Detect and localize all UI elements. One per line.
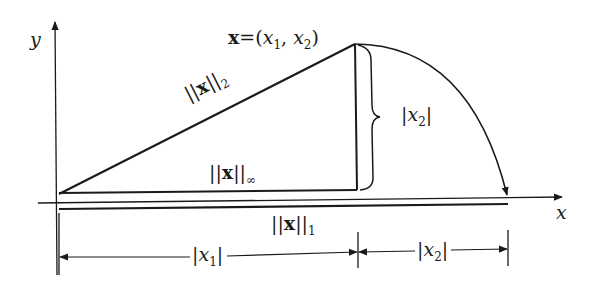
y-axis-label: y xyxy=(30,30,41,49)
point-label: x=(x1, x2) xyxy=(228,28,319,47)
dim-x1-right xyxy=(227,252,357,256)
abs-x2-dimension-label: |x2| xyxy=(417,240,448,259)
norm1-label: ||x||1 xyxy=(271,214,316,233)
dim-x2-left xyxy=(359,251,415,252)
norm1-line xyxy=(59,204,508,209)
y-axis xyxy=(55,22,57,275)
norm-inf-label: ||x||∞ xyxy=(209,163,256,182)
x2-vertical-line xyxy=(355,44,357,190)
x-axis xyxy=(38,197,562,203)
norm-inf-line xyxy=(59,190,357,193)
norm2-line xyxy=(59,44,355,194)
abs-x1-dimension-label: |x1| xyxy=(192,245,223,264)
x2-brace xyxy=(358,45,380,190)
x-axis-label: x xyxy=(556,203,567,222)
dim-x2-right xyxy=(451,249,507,250)
abs-x2-brace-label: |x2| xyxy=(401,105,432,124)
